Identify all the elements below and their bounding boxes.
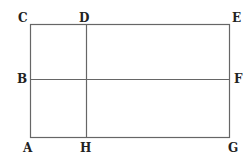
diagram-canvas xyxy=(0,0,252,158)
point-label-d: D xyxy=(79,12,89,24)
outer-rectangle xyxy=(31,25,230,138)
point-label-b: B xyxy=(17,73,27,85)
point-label-f: F xyxy=(234,73,243,85)
point-label-e: E xyxy=(232,12,241,24)
point-label-c: C xyxy=(18,12,28,24)
point-label-h: H xyxy=(80,142,91,154)
point-label-g: G xyxy=(228,142,238,154)
rectangle-diagram: C D E B F A H G xyxy=(0,0,252,158)
point-label-a: A xyxy=(23,142,32,154)
